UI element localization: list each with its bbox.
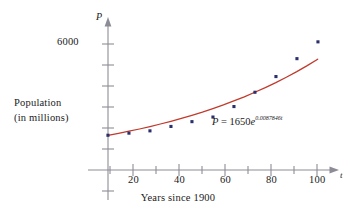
x-axis-variable-label: t xyxy=(340,170,343,180)
y-axis-title-line-1: Population xyxy=(14,95,69,110)
model-equation-annotation: P = 1650e0.0087846t xyxy=(212,115,282,127)
data-point xyxy=(274,75,277,78)
y-axis-title-line-2: (in millions) xyxy=(14,110,69,125)
x-axis-tick-label-60: 60 xyxy=(220,174,231,185)
data-point xyxy=(127,132,130,135)
x-axis-tick-label-80: 80 xyxy=(266,174,277,185)
x-axis-tick-label-40: 40 xyxy=(174,174,185,185)
y-axis-variable-label: P xyxy=(96,11,102,22)
x-axis-title: Years since 1900 xyxy=(141,192,215,203)
data-point xyxy=(316,40,319,43)
data-point xyxy=(148,129,151,132)
data-point xyxy=(232,105,235,108)
x-axis-tick-label-20: 20 xyxy=(128,174,139,185)
y-axis-title: Population (in millions) xyxy=(14,95,69,125)
data-point xyxy=(106,134,109,137)
data-point xyxy=(295,57,298,60)
equation-equals: = xyxy=(218,116,229,127)
y-axis-tick-label-6000: 6000 xyxy=(57,36,79,47)
data-point xyxy=(190,120,193,123)
equation-coefficient: 1650 xyxy=(230,116,251,127)
x-axis-tick-label-100: 100 xyxy=(309,174,325,185)
equation-exponent: 0.0087846t xyxy=(255,115,282,121)
data-point xyxy=(253,91,256,94)
data-point xyxy=(169,125,172,128)
